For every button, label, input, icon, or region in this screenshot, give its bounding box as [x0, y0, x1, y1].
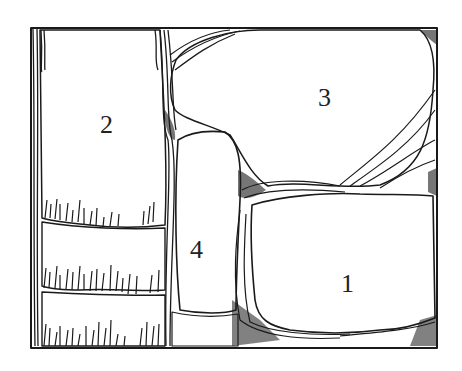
stone-1-outline — [251, 193, 435, 333]
mortar-stipple — [165, 30, 437, 346]
stone-3-outline — [171, 30, 434, 186]
strands-around-stone-1 — [235, 181, 435, 338]
stone-1-label: 1 — [341, 271, 354, 297]
stone-3-label: 3 — [318, 85, 331, 111]
strands-bottom-right — [340, 90, 435, 188]
stone-4-base — [172, 312, 238, 346]
grass-fringe-1 — [45, 199, 154, 227]
stone-4-label: 4 — [190, 237, 203, 263]
stone-4-outline — [176, 131, 241, 313]
stone-2-label: 2 — [100, 112, 113, 138]
strands-top-left — [170, 30, 240, 70]
left-edge-strands — [33, 29, 45, 346]
outer-frame — [31, 28, 437, 348]
grass-fringe-3 — [44, 320, 159, 346]
diagram-canvas — [0, 0, 462, 371]
